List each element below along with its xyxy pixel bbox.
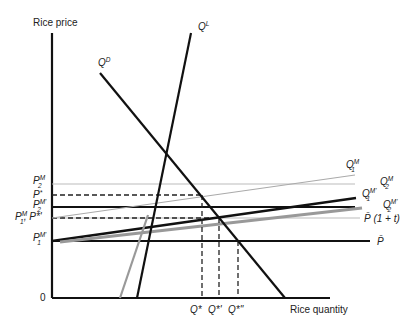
y-axis-label: Rice price bbox=[33, 17, 78, 28]
x-axis-label: Rice quantity bbox=[290, 304, 348, 315]
origin-label: 0 bbox=[40, 292, 46, 303]
import-supply-m1 bbox=[52, 175, 355, 218]
demand-label: QD bbox=[98, 56, 111, 68]
local-supply-curve bbox=[137, 33, 191, 298]
price-label-pm2: PM2 bbox=[33, 174, 46, 189]
import-m2-label: QM2 bbox=[380, 175, 394, 190]
local-supply-label: QL bbox=[198, 20, 210, 32]
import-m2-prime-label: QM'2 bbox=[383, 198, 398, 213]
qty-label-qstarprime: Q*' bbox=[208, 304, 223, 315]
demand-curve bbox=[100, 73, 285, 298]
price-label-pm1-pstarprime: PM1, P*' bbox=[15, 210, 43, 225]
import-supply-m2-prime bbox=[60, 208, 362, 242]
world-price-label: P̄ bbox=[377, 235, 384, 247]
price-label-pm1prime: PM'1 bbox=[33, 231, 47, 246]
qty-label-qstar: Q* bbox=[190, 304, 203, 315]
qty-label-qstardoubleprime: Q*'' bbox=[228, 304, 245, 315]
import-m1-prime-label: QM'1 bbox=[362, 187, 377, 202]
world-price-tariff-label: P̄ (1 + t) bbox=[364, 212, 400, 224]
local-supply-shifted-curve bbox=[120, 215, 148, 298]
rice-market-diagram: Rice price Rice quantity 0 QD QL QM1 QM2… bbox=[0, 0, 412, 327]
import-supply-m1-prime bbox=[52, 198, 356, 241]
import-m1-label: QM1 bbox=[346, 158, 360, 173]
